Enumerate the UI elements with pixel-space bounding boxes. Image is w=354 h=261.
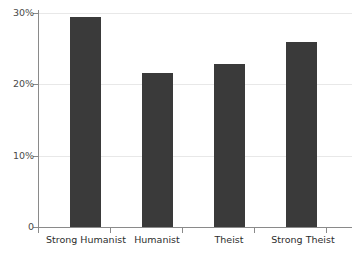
x-tick-mark-0 xyxy=(38,228,39,233)
y-tick-label-30: 30% xyxy=(13,8,34,18)
x-axis-line xyxy=(38,227,352,228)
y-tick-label-0: 0 xyxy=(28,222,34,232)
bar-theist[interactable] xyxy=(214,64,245,227)
bar-chart: 30% 20% 10% 0 Strong Humanist Humanist T… xyxy=(0,0,354,261)
bar-humanist[interactable] xyxy=(142,73,173,227)
y-tick-label-20: 20% xyxy=(13,79,34,89)
x-tick-label-humanist: Humanist xyxy=(112,234,202,246)
y-tick-label-10: 10% xyxy=(13,151,34,161)
bar-strong-theist[interactable] xyxy=(286,42,317,227)
x-tick-label-strong-theist: Strong Theist xyxy=(253,234,353,246)
x-tick-mark-1 xyxy=(110,228,111,233)
y-axis-line xyxy=(38,10,39,227)
bar-strong-humanist[interactable] xyxy=(70,17,101,227)
x-tick-mark-2 xyxy=(182,228,183,233)
gridline-30 xyxy=(38,13,352,14)
x-tick-mark-3 xyxy=(254,228,255,233)
clipped-caption xyxy=(30,253,350,261)
x-tick-mark-4 xyxy=(326,228,327,233)
